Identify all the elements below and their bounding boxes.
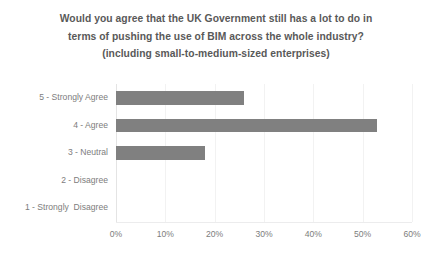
- plot-area: [116, 84, 412, 222]
- bars-layer: [116, 84, 412, 222]
- bar-row: [116, 167, 412, 195]
- category-label: 5 - Strongly Agree: [0, 84, 108, 112]
- bar-row: [116, 112, 412, 140]
- chart-title-line-3: (including small-to-medium-sized enterpr…: [18, 45, 414, 63]
- bar-row: [116, 84, 412, 112]
- x-tick-label: 40%: [293, 228, 333, 240]
- gridline-60: [412, 84, 413, 222]
- x-tick-label: 30%: [244, 228, 284, 240]
- bar-chart: Would you agree that the UK Government s…: [0, 0, 432, 278]
- category-label: 1 - Strongly Disagree: [0, 194, 108, 222]
- x-axis-line: [116, 222, 412, 223]
- category-axis-labels: 5 - Strongly Agree4 - Agree3 - Neutral2 …: [0, 84, 108, 222]
- x-tick-label: 20%: [195, 228, 235, 240]
- bar: [116, 91, 244, 105]
- bar: [116, 119, 377, 133]
- x-axis-tick-labels: 0%10%20%30%40%50%60%: [116, 228, 412, 242]
- x-tick-label: 10%: [145, 228, 185, 240]
- category-label: 2 - Disagree: [0, 167, 108, 195]
- category-label: 4 - Agree: [0, 112, 108, 140]
- chart-title-line-1: Would you agree that the UK Government s…: [18, 10, 414, 28]
- category-label: 3 - Neutral: [0, 139, 108, 167]
- bar: [116, 146, 205, 160]
- chart-title: Would you agree that the UK Government s…: [18, 10, 414, 63]
- x-tick-label: 60%: [392, 228, 432, 240]
- x-tick-label: 50%: [343, 228, 383, 240]
- bar-row: [116, 139, 412, 167]
- chart-title-line-2: terms of pushing the use of BIM across t…: [18, 28, 414, 46]
- bar-row: [116, 194, 412, 222]
- x-tick-label: 0%: [96, 228, 136, 240]
